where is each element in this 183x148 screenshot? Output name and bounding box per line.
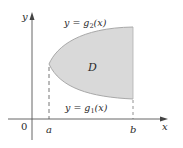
bound-b-label: b	[130, 124, 136, 135]
y-axis-label: y	[21, 11, 28, 22]
bound-a-label: a	[46, 124, 52, 135]
origin-label: 0	[21, 121, 27, 132]
region-diagram: y x 0 a b D y = g2(x) y = g1(x)	[0, 0, 183, 148]
upper-label-suffix: (x)	[94, 17, 107, 28]
lower-label-suffix: (x)	[95, 102, 108, 113]
upper-curve-label: y = g2(x)	[63, 17, 107, 30]
lower-curve-label: y = g1(x)	[64, 102, 108, 115]
lower-label-prefix: y = g	[64, 102, 90, 113]
x-axis-label: x	[162, 121, 168, 132]
y-axis-arrow-icon	[30, 12, 35, 20]
upper-label-prefix: y = g	[63, 17, 89, 28]
region-label-d: D	[87, 61, 97, 74]
